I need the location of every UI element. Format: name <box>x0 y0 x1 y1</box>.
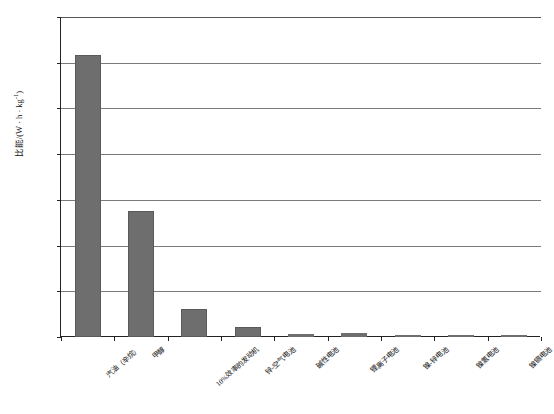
x-tick-label: 锌-空气电池 <box>262 344 296 376</box>
plot-area <box>60 17 540 337</box>
bar <box>501 335 527 337</box>
bar <box>235 327 261 337</box>
x-tick-label: 汽油（辛烷） <box>103 344 141 380</box>
bar <box>341 333 367 337</box>
x-tick-label: 镍氢电池 <box>473 344 500 370</box>
bar <box>181 309 207 337</box>
bar <box>448 335 474 337</box>
x-tick-mark <box>434 337 435 341</box>
y-axis-title: 比能/(W · h · kg-1) <box>12 64 24 184</box>
x-tick-label: 10%效率的发动机 <box>214 344 262 388</box>
x-tick-label: 锂离子电池 <box>368 344 401 375</box>
x-tick-mark <box>168 337 169 341</box>
bar <box>395 335 421 337</box>
x-tick-mark <box>381 337 382 341</box>
y-axis-title-base: 比能/(W · h · kg <box>14 99 24 157</box>
x-tick-mark <box>221 337 222 341</box>
x-tick-label: 镍-锌电池 <box>420 344 449 372</box>
bar <box>75 55 101 337</box>
bars-layer <box>61 17 541 337</box>
figure-caption <box>0 400 549 414</box>
x-tick-mark <box>541 337 542 341</box>
x-tick-mark <box>328 337 329 341</box>
x-tick-mark <box>274 337 275 341</box>
x-tick-mark <box>488 337 489 341</box>
y-axis-title-tail: ) <box>14 91 24 94</box>
bar <box>288 334 314 337</box>
y-axis-title-exponent: -1 <box>12 94 19 99</box>
x-tick-label: 碱性电池 <box>313 344 340 370</box>
x-tick-mark <box>114 337 115 341</box>
bar <box>128 211 154 337</box>
x-tick-mark <box>61 337 62 341</box>
x-tick-label: 镍镉电池 <box>527 344 554 370</box>
x-tick-label: 甲醇 <box>150 344 167 361</box>
